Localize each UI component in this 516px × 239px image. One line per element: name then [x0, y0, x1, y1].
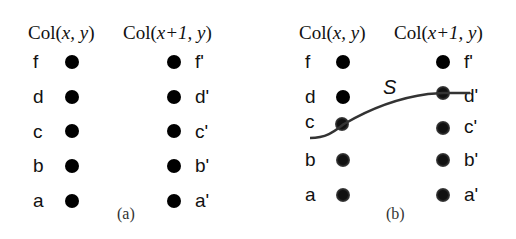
- right-label: a': [195, 191, 209, 211]
- node-dot: [65, 124, 79, 138]
- node-dot: [167, 194, 181, 208]
- node-dot: [167, 90, 181, 104]
- node-dot: [167, 55, 181, 69]
- curve-s: [258, 0, 516, 239]
- curve-label: S: [383, 76, 396, 99]
- node-dot: [167, 124, 181, 138]
- node-dot: [65, 90, 79, 104]
- right-label: f': [195, 52, 204, 72]
- left-label: f: [33, 52, 38, 72]
- panel-a: Col(x, y) Col(x+1, y) f d c b a f' d' c'…: [0, 0, 258, 239]
- left-label: c: [33, 122, 43, 142]
- column-header-right: Col(x+1, y): [123, 22, 212, 44]
- node-dot: [65, 194, 79, 208]
- left-label: b: [33, 156, 44, 176]
- right-label: b': [195, 156, 209, 176]
- panel-b: Col(x, y) Col(x+1, y) f d c b a f' d' c'…: [258, 0, 516, 239]
- panel-caption: (a): [117, 205, 135, 223]
- left-label: d: [33, 87, 44, 107]
- column-header-left: Col(x, y): [28, 22, 94, 44]
- node-dot: [65, 159, 79, 173]
- left-label: a: [33, 191, 44, 211]
- right-label: d': [195, 87, 209, 107]
- right-label: c': [195, 122, 208, 142]
- node-dot: [65, 55, 79, 69]
- panel-caption: (b): [386, 205, 405, 223]
- node-dot: [167, 159, 181, 173]
